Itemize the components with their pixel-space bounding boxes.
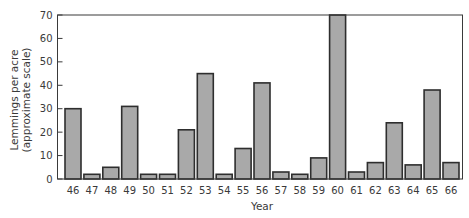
bar-46 <box>65 109 81 179</box>
bar-57 <box>273 172 289 179</box>
x-tick-label: 63 <box>388 185 401 196</box>
bar-55 <box>235 149 251 180</box>
bar-54 <box>216 174 232 179</box>
bar-65 <box>424 90 440 179</box>
bar-59 <box>311 158 327 179</box>
x-tick-label: 52 <box>180 185 193 196</box>
x-tick-label: 59 <box>312 185 325 196</box>
x-tick-label: 49 <box>123 185 136 196</box>
y-tick-label: 70 <box>40 10 53 21</box>
x-tick-label: 54 <box>218 185 231 196</box>
y-tick-label: 20 <box>40 127 53 138</box>
bar-53 <box>197 74 213 179</box>
x-tick-label: 57 <box>275 185 288 196</box>
x-tick-label: 62 <box>369 185 382 196</box>
x-tick-label: 58 <box>293 185 306 196</box>
x-tick-label: 51 <box>161 185 174 196</box>
bar-64 <box>405 165 421 179</box>
y-tick-label: 50 <box>40 56 53 67</box>
x-tick-label: 55 <box>237 185 250 196</box>
y-tick-label: 60 <box>40 33 53 44</box>
y-tick-label: 30 <box>40 103 53 114</box>
x-tick-label: 65 <box>426 185 439 196</box>
x-tick-label: 56 <box>256 185 269 196</box>
x-tick-label: 46 <box>67 185 80 196</box>
bar-60 <box>330 15 346 179</box>
y-tick-label: 10 <box>40 150 53 161</box>
x-tick-label: 66 <box>445 185 458 196</box>
bar-66 <box>443 163 459 179</box>
bar-62 <box>367 163 383 179</box>
bar-58 <box>292 174 308 179</box>
x-tick-label: 60 <box>331 185 344 196</box>
bar-49 <box>122 106 138 179</box>
bar-61 <box>349 172 365 179</box>
y-axis-title: Lemmings per acre <box>8 49 20 150</box>
bar-47 <box>84 174 100 179</box>
bars-group <box>65 15 459 179</box>
y-axis: 010203040506070 <box>40 10 63 185</box>
x-axis-title: Year <box>250 200 274 212</box>
x-tick-label: 50 <box>142 185 155 196</box>
bar-48 <box>103 167 119 179</box>
y-tick-label: 0 <box>46 174 52 185</box>
x-axis: 4647484950515253545556575859606162636465… <box>67 185 458 196</box>
x-tick-label: 53 <box>199 185 212 196</box>
y-tick-label: 40 <box>40 80 53 91</box>
bar-63 <box>386 123 402 179</box>
y-axis-subtitle: (approximate scale) <box>20 48 32 153</box>
bar-51 <box>160 174 176 179</box>
x-tick-label: 64 <box>407 185 420 196</box>
x-tick-label: 61 <box>350 185 363 196</box>
lemming-bar-chart: 010203040506070 464748495051525354555657… <box>0 0 469 218</box>
bar-50 <box>141 174 157 179</box>
bar-56 <box>254 83 270 179</box>
bar-52 <box>178 130 194 179</box>
x-tick-label: 47 <box>86 185 99 196</box>
x-tick-label: 48 <box>104 185 117 196</box>
